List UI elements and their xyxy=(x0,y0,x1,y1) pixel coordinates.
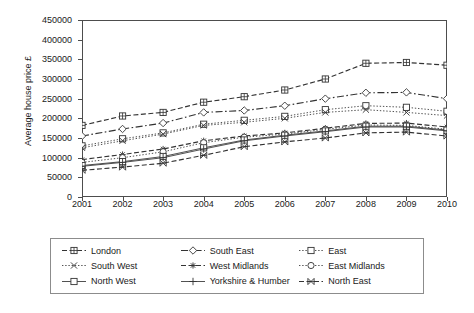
y-tick-label: 200000 xyxy=(42,114,72,123)
series-line-yorkshire-humber xyxy=(82,127,447,166)
x-tick-label: 2004 xyxy=(194,199,214,209)
legend-item-north-east[interactable]: North East xyxy=(298,274,417,289)
legend-key-square-crossed-icon xyxy=(61,245,87,256)
legend-item-yorkshire-humber[interactable]: Yorkshire & Humber xyxy=(180,274,299,289)
series-line-east-midlands xyxy=(82,125,447,162)
data-point-circle xyxy=(308,263,314,269)
x-axis-tick-labels: 2001200220032004200520062007200820092010 xyxy=(82,199,447,215)
chart-screenshot: Average house price £ 050000100000150000… xyxy=(0,0,474,313)
legend-label: South West xyxy=(91,261,137,271)
y-axis-ticks xyxy=(74,20,82,197)
data-point-bowtie xyxy=(322,135,328,141)
data-point-plus xyxy=(189,278,196,285)
legend-item-south-east[interactable]: South East xyxy=(180,243,299,258)
data-point-square-open xyxy=(444,127,447,133)
series-lines xyxy=(82,20,447,197)
legend-key-bowtie-icon xyxy=(298,276,324,287)
data-point-bowtie xyxy=(201,152,207,158)
y-tick-label: 300000 xyxy=(42,75,72,84)
data-point-square-crossed xyxy=(71,248,77,254)
data-point-bowtie xyxy=(308,278,314,284)
legend-label: London xyxy=(91,246,121,256)
legend-item-west-midlands[interactable]: West Midlands xyxy=(180,258,299,273)
data-point-square-crossed xyxy=(119,113,125,119)
data-point-diamond xyxy=(443,95,447,102)
series-line-south-west xyxy=(82,110,447,148)
legend-item-east-midlands[interactable]: East Midlands xyxy=(298,258,417,273)
legend-label: East Midlands xyxy=(328,261,385,271)
legend-grid: LondonSouth EastEastSouth WestWest Midla… xyxy=(51,239,423,293)
y-tick-label: 450000 xyxy=(42,16,72,25)
legend-label: West Midlands xyxy=(210,261,269,271)
data-point-square-crossed xyxy=(160,109,166,115)
legend-label: South East xyxy=(210,246,254,256)
legend-key-square-icon xyxy=(298,245,324,256)
data-point-bowtie xyxy=(241,144,247,150)
data-point-asterisk xyxy=(190,263,196,269)
legend-key-diamond-icon xyxy=(180,245,206,256)
data-point-square-crossed xyxy=(282,87,288,93)
legend-key-square-open-icon xyxy=(61,276,87,287)
data-point-diamond xyxy=(241,107,248,114)
data-point-square-crossed xyxy=(322,76,328,82)
data-point-diamond xyxy=(82,132,86,139)
data-point-square-crossed xyxy=(403,59,409,65)
series-line-london xyxy=(82,63,447,126)
data-point-square-crossed xyxy=(363,60,369,66)
data-point-square xyxy=(201,121,207,127)
plot-area xyxy=(82,20,447,197)
data-point-square xyxy=(308,248,314,254)
legend-item-north-west[interactable]: North West xyxy=(61,274,180,289)
y-tick-label: 150000 xyxy=(42,134,72,143)
y-tick-label: 100000 xyxy=(42,153,72,162)
x-tick-label: 2005 xyxy=(234,199,254,209)
data-point-square-open xyxy=(71,278,77,284)
legend-label: East xyxy=(328,246,346,256)
chart-legend: LondonSouth EastEastSouth WestWest Midla… xyxy=(50,238,424,294)
legend-key-plus-icon xyxy=(180,276,206,287)
data-point-bowtie xyxy=(363,130,369,136)
line-chart-figure: Average house price £ 050000100000150000… xyxy=(0,0,474,228)
x-tick-label: 2010 xyxy=(437,199,457,209)
x-tick-label: 2007 xyxy=(315,199,335,209)
data-point-diamond xyxy=(200,109,207,116)
x-tick-label: 2003 xyxy=(153,199,173,209)
data-point-diamond xyxy=(322,95,329,102)
data-point-square-crossed xyxy=(241,94,247,100)
legend-key-circle-icon xyxy=(298,260,324,271)
y-tick-label: 50000 xyxy=(47,173,72,182)
data-point-diamond xyxy=(362,89,369,96)
data-point-bowtie xyxy=(282,139,288,145)
data-point-diamond xyxy=(189,247,196,254)
legend-key-x-icon xyxy=(61,260,87,271)
y-tick-label: 350000 xyxy=(42,55,72,64)
y-tick-label: 250000 xyxy=(42,94,72,103)
data-point-diamond xyxy=(119,125,126,132)
legend-item-east[interactable]: East xyxy=(298,243,417,258)
data-point-diamond xyxy=(159,119,166,126)
data-point-diamond xyxy=(403,89,410,96)
y-axis-tick-labels: 0500001000001500002000002500003000003500… xyxy=(0,20,78,197)
series-line-west-midlands xyxy=(82,123,447,160)
legend-key-asterisk-icon xyxy=(180,260,206,271)
data-point-bowtie xyxy=(444,133,447,139)
legend-label: North West xyxy=(91,276,136,286)
legend-item-south-west[interactable]: South West xyxy=(61,258,180,273)
x-tick-label: 2009 xyxy=(396,199,416,209)
x-tick-label: 2006 xyxy=(275,199,295,209)
y-tick-label: 400000 xyxy=(42,35,72,44)
data-point-square-crossed xyxy=(444,62,447,68)
legend-item-london[interactable]: London xyxy=(61,243,180,258)
data-point-diamond xyxy=(281,102,288,109)
legend-label: North East xyxy=(328,276,371,286)
data-point-square-crossed xyxy=(82,122,85,128)
x-tick-label: 2008 xyxy=(356,199,376,209)
data-point-square-crossed xyxy=(201,99,207,105)
data-point-square xyxy=(160,130,166,136)
series-line-north-west xyxy=(82,126,447,165)
x-tick-label: 2001 xyxy=(72,199,92,209)
x-tick-label: 2002 xyxy=(113,199,133,209)
data-point-square xyxy=(403,104,409,110)
legend-label: Yorkshire & Humber xyxy=(210,276,290,286)
